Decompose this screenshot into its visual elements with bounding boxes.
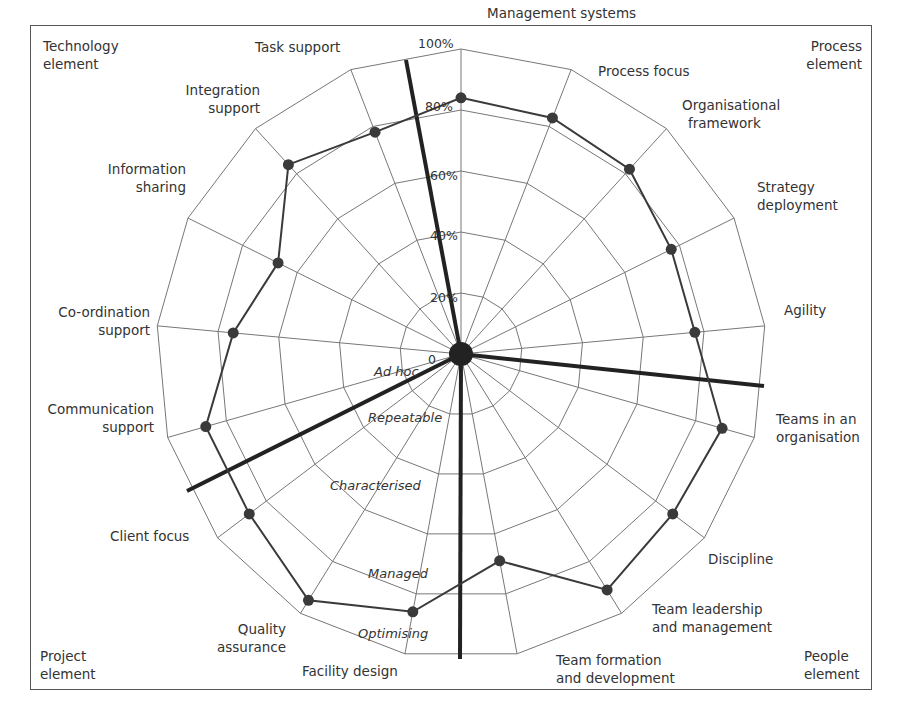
axis-label-quality-assurance: Qualityassurance bbox=[200, 620, 286, 656]
tick-label-40: 40% bbox=[430, 228, 458, 243]
axis-label-line: framework bbox=[682, 114, 780, 132]
data-point bbox=[303, 595, 314, 606]
axis-label-team-formation: Team formationand development bbox=[556, 651, 675, 687]
axis-label-line: Task support bbox=[255, 38, 340, 56]
data-point bbox=[456, 92, 467, 103]
axis-label-line: Strategy bbox=[757, 178, 838, 196]
group-separator-line bbox=[460, 354, 461, 659]
axis-label-line: organisation bbox=[776, 428, 860, 446]
group-label-line: element bbox=[802, 55, 862, 73]
axis-label-line: Communication bbox=[30, 400, 154, 418]
axis-label-line: Team formation bbox=[556, 651, 675, 669]
tick-label-20: 20% bbox=[430, 290, 458, 305]
axis-label-line: Discipline bbox=[708, 550, 773, 568]
axis-label-teams-in-an-organisation: Teams in anorganisation bbox=[776, 410, 860, 446]
data-point bbox=[717, 423, 728, 434]
data-point bbox=[244, 508, 255, 519]
group-label-line: element bbox=[43, 55, 119, 73]
group-separator-line bbox=[461, 354, 764, 386]
axis-label-strategy-deployment: Strategydeployment bbox=[757, 178, 838, 214]
axis-label-line: Process focus bbox=[598, 62, 690, 80]
center-hub bbox=[449, 342, 473, 366]
axis-label-line: Client focus bbox=[110, 527, 189, 545]
group-label-line: element bbox=[40, 665, 96, 683]
axis-label-coordination-support: Co-ordinationsupport bbox=[40, 303, 150, 339]
axis-label-line: Organisational bbox=[682, 96, 780, 114]
axis-label-management-systems: Management systems bbox=[487, 4, 636, 22]
axis-label-line: Information bbox=[90, 160, 186, 178]
group-label-line: Project bbox=[40, 647, 96, 665]
axis-label-line: Agility bbox=[784, 301, 826, 319]
axis-label-line: Co-ordination bbox=[40, 303, 150, 321]
group-label-people: People element bbox=[804, 647, 860, 683]
data-point bbox=[407, 606, 418, 617]
grid-spoke bbox=[461, 354, 704, 538]
data-point bbox=[667, 508, 678, 519]
data-point bbox=[666, 244, 677, 255]
group-label-line: Technology bbox=[43, 37, 119, 55]
tick-label-100: 100% bbox=[418, 36, 454, 51]
axis-label-discipline: Discipline bbox=[708, 550, 773, 568]
level-label-characterised: Characterised bbox=[330, 478, 421, 493]
tick-label-60: 60% bbox=[430, 168, 458, 183]
data-point bbox=[689, 327, 700, 338]
axis-label-line: Management systems bbox=[487, 4, 636, 22]
grid-spoke bbox=[218, 354, 461, 538]
level-label-optimising: Optimising bbox=[358, 626, 428, 641]
axis-label-line: and management bbox=[652, 618, 772, 636]
grid-spoke bbox=[461, 326, 765, 354]
axis-label-line: Teams in an bbox=[776, 410, 860, 428]
group-label-process: Process element bbox=[802, 37, 862, 73]
tick-label-0: 0 bbox=[428, 352, 436, 367]
axis-label-agility: Agility bbox=[784, 301, 826, 319]
axis-label-facility-design: Facility design bbox=[302, 662, 398, 680]
data-point bbox=[370, 127, 381, 138]
axis-label-integration-support: Integrationsupport bbox=[170, 81, 260, 117]
group-label-line: Process bbox=[802, 37, 862, 55]
axis-label-task-support: Task support bbox=[255, 38, 340, 56]
axis-label-line: Integration bbox=[170, 81, 260, 99]
axis-label-line: Facility design bbox=[302, 662, 398, 680]
axis-label-communication-support: Communicationsupport bbox=[30, 400, 154, 436]
axis-label-line: Team leadership bbox=[652, 600, 772, 618]
data-point bbox=[624, 164, 635, 175]
data-point bbox=[200, 421, 211, 432]
data-point bbox=[494, 555, 505, 566]
data-point bbox=[602, 584, 613, 595]
axis-label-process-focus: Process focus bbox=[598, 62, 690, 80]
data-point bbox=[273, 257, 284, 268]
level-label-ad-hoc: Ad hoc bbox=[374, 364, 419, 379]
axis-label-organisational-framework: Organisationalframework bbox=[682, 96, 780, 132]
axis-label-line: assurance bbox=[200, 638, 286, 656]
grid-spoke bbox=[157, 326, 461, 354]
grid-spoke bbox=[461, 129, 666, 354]
data-point bbox=[228, 327, 239, 338]
axis-label-client-focus: Client focus bbox=[110, 527, 189, 545]
axis-label-line: support bbox=[170, 99, 260, 117]
data-point bbox=[547, 112, 558, 123]
group-label-project: Project element bbox=[40, 647, 96, 683]
axis-label-information-sharing: Informationsharing bbox=[90, 160, 186, 196]
axis-label-team-leadership: Team leadershipand management bbox=[652, 600, 772, 636]
level-label-repeatable: Repeatable bbox=[368, 410, 442, 425]
data-point bbox=[283, 159, 294, 170]
axis-label-line: and development bbox=[556, 669, 675, 687]
axis-label-line: deployment bbox=[757, 196, 838, 214]
level-label-managed: Managed bbox=[368, 566, 428, 581]
axis-label-line: support bbox=[30, 418, 154, 436]
group-label-line: element bbox=[804, 665, 860, 683]
axis-label-line: support bbox=[40, 321, 150, 339]
grid-spoke bbox=[461, 70, 571, 354]
tick-label-80: 80% bbox=[425, 99, 453, 114]
group-label-line: People bbox=[804, 647, 860, 665]
axis-label-line: sharing bbox=[90, 178, 186, 196]
axis-label-line: Quality bbox=[200, 620, 286, 638]
group-label-technology: Technology element bbox=[43, 37, 119, 73]
